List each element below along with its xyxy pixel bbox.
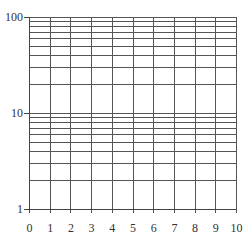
x-axis-tick-labels: 012345678910: [27, 221, 243, 235]
x-tick-label: 7: [171, 221, 177, 235]
x-tick-label: 8: [192, 221, 198, 235]
x-tick-label: 9: [213, 221, 219, 235]
x-tick-label: 1: [47, 221, 53, 235]
log-grid-chart: 012345678910 110100: [0, 0, 247, 240]
x-tick-label: 0: [27, 221, 33, 235]
x-tick-label: 5: [130, 221, 136, 235]
x-tick-label: 10: [231, 221, 243, 235]
grid-lines: [29, 17, 237, 213]
y-tick-label: 100: [5, 10, 23, 24]
x-tick-label: 4: [109, 221, 115, 235]
x-tick-label: 2: [68, 221, 74, 235]
x-tick-label: 3: [89, 221, 95, 235]
x-tick-label: 6: [151, 221, 157, 235]
y-tick-label: 1: [17, 202, 23, 216]
y-tick-label: 10: [11, 106, 23, 120]
y-axis-tick-labels: 110100: [5, 10, 23, 216]
